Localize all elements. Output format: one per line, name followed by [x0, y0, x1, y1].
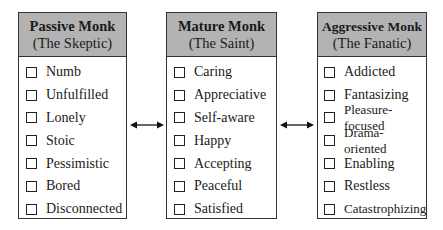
- list-item: Self-aware: [174, 107, 276, 130]
- column-title: Passive Monk: [19, 18, 126, 35]
- checkbox-icon[interactable]: [26, 90, 37, 101]
- list-item: Caring: [174, 61, 276, 84]
- checkbox-icon[interactable]: [174, 158, 185, 169]
- passive-monk-header: Passive Monk (The Skeptic): [19, 13, 126, 57]
- checkbox-icon[interactable]: [324, 181, 335, 192]
- item-label: Accepting: [194, 156, 252, 172]
- item-label: Appreciative: [194, 87, 266, 103]
- double-arrow-icon: [280, 120, 314, 130]
- list-item: Appreciative: [174, 84, 276, 107]
- mature-monk-box: Mature Monk (The Saint) Caring Appreciat…: [166, 12, 277, 219]
- list-item: Addicted: [324, 61, 426, 84]
- list-item: Stoic: [26, 129, 126, 152]
- checkbox-icon[interactable]: [174, 90, 185, 101]
- checkbox-icon[interactable]: [174, 112, 185, 123]
- item-label: Restless: [344, 178, 390, 194]
- item-label: Unfulfilled: [46, 87, 108, 103]
- item-label: Bored: [46, 178, 80, 194]
- item-label: Drama-oriented: [344, 125, 426, 157]
- checkbox-icon[interactable]: [174, 135, 185, 146]
- checkbox-icon[interactable]: [324, 112, 335, 123]
- item-label: Catastrophizing: [344, 201, 426, 217]
- item-label: Self-aware: [194, 110, 255, 126]
- item-label: Satisfied: [194, 201, 243, 217]
- list-item: Drama-oriented: [324, 129, 426, 152]
- checkbox-icon[interactable]: [26, 204, 37, 215]
- list-item: Pessimistic: [26, 152, 126, 175]
- list-item: Lonely: [26, 107, 126, 130]
- item-label: Stoic: [46, 133, 75, 149]
- list-item: Restless: [324, 175, 426, 198]
- list-item: Satisfied: [174, 198, 276, 221]
- checkbox-icon[interactable]: [26, 158, 37, 169]
- item-label: Pessimistic: [46, 156, 109, 172]
- column-subtitle: (The Skeptic): [19, 35, 126, 52]
- checkbox-icon[interactable]: [26, 67, 37, 78]
- checkbox-icon[interactable]: [26, 112, 37, 123]
- checkbox-icon[interactable]: [324, 67, 335, 78]
- checkbox-icon[interactable]: [174, 204, 185, 215]
- item-label: Caring: [194, 64, 232, 80]
- list-item: Catastrophizing: [324, 198, 426, 221]
- checkbox-icon[interactable]: [324, 204, 335, 215]
- item-label: Enabling: [344, 156, 395, 172]
- column-title: Mature Monk: [167, 18, 276, 35]
- item-label: Disconnected: [46, 201, 122, 217]
- item-label: Lonely: [46, 110, 86, 126]
- list-item: Numb: [26, 61, 126, 84]
- aggressive-monk-box: Aggressive Monk (The Fanatic) Addicted F…: [317, 12, 427, 219]
- double-arrow-icon: [130, 120, 164, 130]
- list-item: Happy: [174, 129, 276, 152]
- item-label: Numb: [46, 64, 81, 80]
- column-subtitle: (The Fanatic): [318, 35, 426, 52]
- checkbox-icon[interactable]: [26, 181, 37, 192]
- trait-list: Addicted Fantasizing Pleasure-focused Dr…: [318, 57, 426, 221]
- checkbox-icon[interactable]: [26, 135, 37, 146]
- aggressive-monk-header: Aggressive Monk (The Fanatic): [318, 13, 426, 57]
- list-item: Bored: [26, 175, 126, 198]
- checkbox-icon[interactable]: [324, 90, 335, 101]
- item-label: Happy: [194, 133, 231, 149]
- passive-monk-box: Passive Monk (The Skeptic) Numb Unfulfil…: [18, 12, 127, 219]
- trait-list: Caring Appreciative Self-aware Happy Acc…: [167, 57, 276, 221]
- checkbox-icon[interactable]: [324, 158, 335, 169]
- column-title: Aggressive Monk: [318, 18, 426, 35]
- checkbox-icon[interactable]: [174, 181, 185, 192]
- item-label: Addicted: [344, 64, 395, 80]
- item-label: Fantasizing: [344, 87, 409, 103]
- list-item: Accepting: [174, 152, 276, 175]
- list-item: Peaceful: [174, 175, 276, 198]
- list-item: Unfulfilled: [26, 84, 126, 107]
- list-item: Disconnected: [26, 198, 126, 221]
- trait-list: Numb Unfulfilled Lonely Stoic Pessimisti…: [19, 57, 126, 221]
- checkbox-icon[interactable]: [174, 67, 185, 78]
- mature-monk-header: Mature Monk (The Saint): [167, 13, 276, 57]
- column-subtitle: (The Saint): [167, 35, 276, 52]
- checkbox-icon[interactable]: [324, 135, 335, 146]
- item-label: Peaceful: [194, 178, 242, 194]
